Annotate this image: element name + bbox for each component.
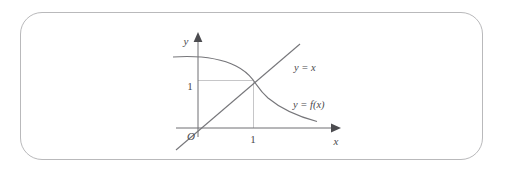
x-tick-label-1: 1 [250,133,256,145]
figure-container: y x O 1 1 y = x y = f(x) [0,0,505,172]
origin-label: O [187,130,195,142]
function-curve-label: y = f(x) [292,99,325,111]
identity-line-label: y = x [293,62,316,73]
y-axis-label: y [183,35,189,47]
y-axis-arrow-icon [194,32,203,42]
graph-canvas: y x O 1 1 y = x y = f(x) [0,0,505,172]
y-tick-label-1: 1 [187,80,193,92]
x-axis-arrow-icon [331,124,341,133]
x-axis-label: x [333,135,339,147]
